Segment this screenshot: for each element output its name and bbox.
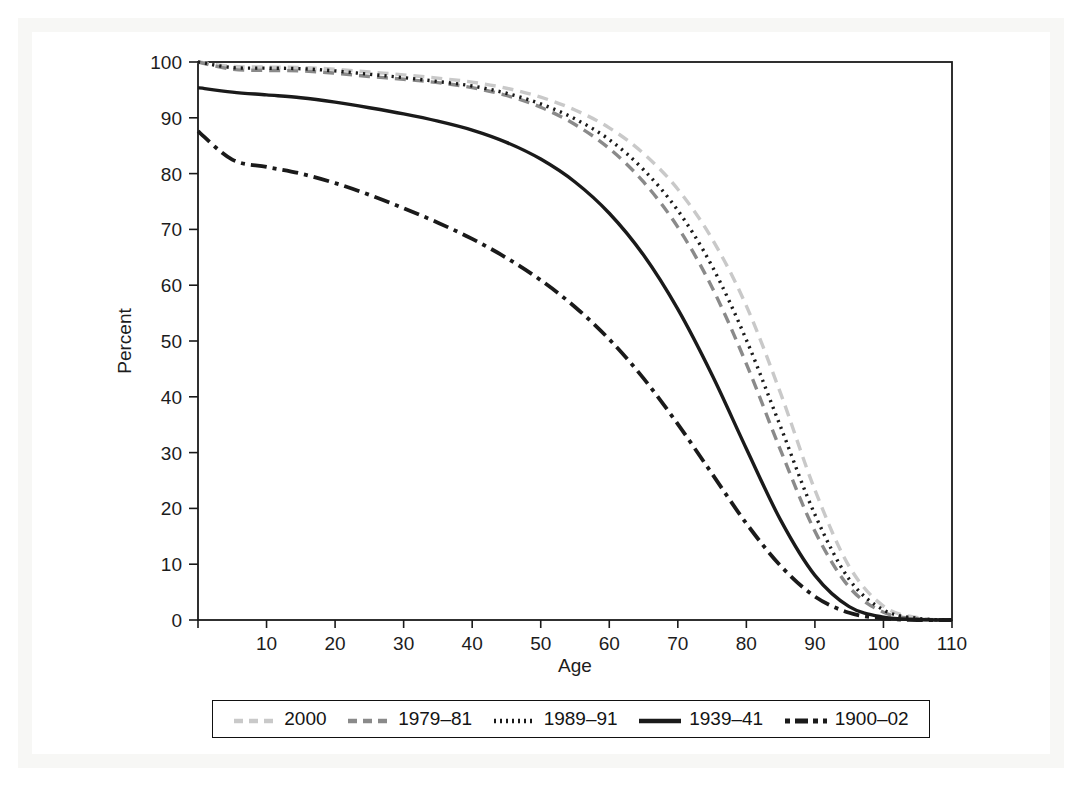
y-axis-ticks: 0102030405060708090100 xyxy=(150,52,198,631)
y-tick-label: 30 xyxy=(161,443,182,464)
y-tick-label: 0 xyxy=(171,610,182,631)
x-axis-ticks: 102030405060708090100110 xyxy=(198,620,967,654)
legend-label: 2000 xyxy=(284,708,326,730)
x-tick-label: 40 xyxy=(462,633,483,654)
y-tick-label: 20 xyxy=(161,498,182,519)
x-tick-label: 20 xyxy=(325,633,346,654)
plot-border xyxy=(198,62,952,620)
legend-entry-1989-91[interactable]: 1989–91 xyxy=(493,708,618,730)
data-series-group xyxy=(198,62,952,620)
y-tick-label: 60 xyxy=(161,275,182,296)
y-tick-label: 100 xyxy=(150,52,182,73)
series-line-1989-91 xyxy=(198,62,952,620)
legend-entry-1900-02[interactable]: 1900–02 xyxy=(784,708,909,730)
series-line-1939-41 xyxy=(198,88,952,620)
legend-label: 1900–02 xyxy=(835,708,909,730)
legend-swatch-icon xyxy=(347,717,391,722)
legend-swatch-icon xyxy=(784,717,828,722)
y-tick-label: 90 xyxy=(161,108,182,129)
series-line-2000 xyxy=(198,62,952,620)
x-tick-label: 70 xyxy=(667,633,688,654)
x-tick-label: 10 xyxy=(256,633,277,654)
x-tick-label: 110 xyxy=(937,633,967,654)
chart-legend: 20001979–811989–911939–411900–02 xyxy=(212,700,930,738)
x-tick-label: 100 xyxy=(868,633,900,654)
survivorship-chart: 102030405060708090100110 010203040506070… xyxy=(0,0,1082,786)
legend-label: 1989–91 xyxy=(544,708,618,730)
y-axis-title: Percent xyxy=(114,308,135,374)
y-tick-label: 40 xyxy=(161,387,182,408)
x-tick-label: 60 xyxy=(599,633,620,654)
y-tick-label: 10 xyxy=(161,554,182,575)
legend-swatch-icon xyxy=(493,717,537,722)
plot-frame xyxy=(198,62,952,620)
legend-entry-1939-41[interactable]: 1939–41 xyxy=(638,708,763,730)
x-tick-label: 90 xyxy=(804,633,825,654)
x-tick-label: 30 xyxy=(393,633,414,654)
y-tick-label: 50 xyxy=(161,331,182,352)
series-line-1979-81 xyxy=(198,62,952,620)
legend-entry-1979-81[interactable]: 1979–81 xyxy=(347,708,472,730)
legend-label: 1979–81 xyxy=(398,708,472,730)
legend-label: 1939–41 xyxy=(689,708,763,730)
figure-root: 102030405060708090100110 010203040506070… xyxy=(0,0,1082,786)
y-tick-label: 70 xyxy=(161,219,182,240)
x-axis-title: Age xyxy=(558,655,592,676)
y-tick-label: 80 xyxy=(161,164,182,185)
legend-swatch-icon xyxy=(638,717,682,722)
legend-entry-2000[interactable]: 2000 xyxy=(233,708,326,730)
legend-swatch-icon xyxy=(233,717,277,722)
plot-svg: 102030405060708090100110 010203040506070… xyxy=(0,0,1082,786)
x-tick-label: 80 xyxy=(736,633,757,654)
x-tick-label: 50 xyxy=(530,633,551,654)
